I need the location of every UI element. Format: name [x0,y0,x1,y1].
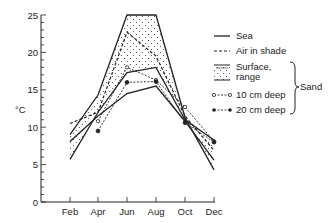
data-point [183,105,186,108]
y-tick-label: 25 [27,10,38,21]
y-tick-label: 10 [27,122,38,133]
data-point [96,129,100,133]
y-major-ticks: 0510152025 [27,10,38,208]
legend-air-label: Air in shade [236,45,286,56]
y-tick-label: 15 [27,84,38,95]
legend-surface-label-2: range [236,71,260,82]
legend-10cm-open-circle-icon [212,93,215,96]
x-tick-label: Dec [206,206,223,217]
legend-sand-label: Sand [300,81,322,92]
data-point [183,121,187,125]
legend-surface-swatch [214,65,230,80]
temperature-chart: 0510152025 FebAprJunAugOctDec °C Sea Air… [0,0,336,223]
x-tick-label: Aug [148,206,165,217]
legend-sea-label: Sea [236,30,254,41]
surface-range-area [70,15,214,170]
data-point [154,80,158,84]
y-tick-label: 20 [27,47,38,58]
y-axis-title: °C [15,104,26,115]
data-point [96,120,99,123]
data-point [125,66,128,69]
x-tick-label: Jun [119,206,134,217]
x-tick-label: Apr [91,206,106,217]
data-point [125,80,129,84]
x-tick-label: Feb [62,206,78,217]
y-tick-label: 5 [33,159,38,170]
legend-10cm-label: 10 cm deep [236,89,286,100]
legend-20cm-filled-circle-icon [212,108,216,112]
x-major-ticks: FebAprJunAugOctDec [62,197,223,217]
legend-20cm-label: 20 cm deep [236,104,286,115]
legend-20cm-filled-circle-icon-2 [228,108,232,112]
sand-bracket-icon [290,62,299,114]
y-minor-ticks [41,15,46,202]
x-tick-label: Oct [178,206,193,217]
y-tick-label: 0 [33,197,38,208]
data-point [212,140,216,144]
legend: Sea Air in shade Surface, range 10 cm de… [212,30,322,115]
legend-10cm-open-circle-icon-2 [228,93,231,96]
